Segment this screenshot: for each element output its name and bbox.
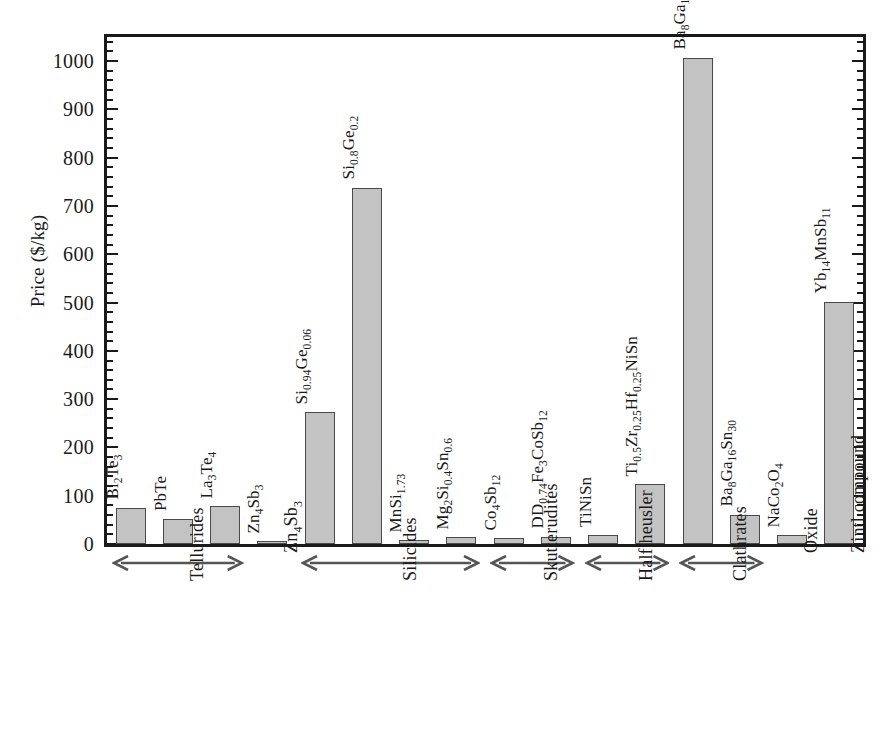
y-major-tick xyxy=(107,60,118,62)
group-label: Tellurides xyxy=(187,507,208,581)
group-label: Oxide xyxy=(801,508,822,553)
y-major-tick xyxy=(852,60,863,62)
y-major-tick xyxy=(107,446,118,448)
y-tick-label: 400 xyxy=(32,341,94,361)
bar-label: Ba8Ga16Sn30 xyxy=(716,420,737,507)
y-minor-tick xyxy=(107,234,113,236)
y-minor-tick xyxy=(107,524,113,526)
group-span-double-arrow-icon xyxy=(301,555,480,571)
group-label: Zintl compound xyxy=(848,435,869,553)
y-axis-tick-labels: 01002003004005006007008009001000 xyxy=(32,0,94,735)
group-span-double-arrow-icon xyxy=(112,555,244,571)
group-label: Zn4Sb3 xyxy=(281,501,306,553)
y-minor-tick xyxy=(107,379,113,381)
y-tick-label: 600 xyxy=(32,244,94,264)
y-minor-tick xyxy=(107,340,113,342)
y-tick-label: 1000 xyxy=(32,51,94,71)
bar xyxy=(116,508,146,544)
y-tick-label: 800 xyxy=(32,148,94,168)
bar xyxy=(210,506,240,544)
y-minor-tick xyxy=(107,147,113,149)
y-major-tick xyxy=(107,205,118,207)
group-label: Silicides xyxy=(400,517,421,581)
y-minor-tick xyxy=(857,244,863,246)
y-minor-tick xyxy=(857,234,863,236)
y-minor-tick xyxy=(857,166,863,168)
bar-label: Si0.8Ge0.2 xyxy=(338,116,359,180)
y-minor-tick xyxy=(857,176,863,178)
y-major-tick xyxy=(107,350,118,352)
y-minor-tick xyxy=(107,292,113,294)
y-minor-tick xyxy=(107,417,113,419)
y-minor-tick xyxy=(857,99,863,101)
group-label: Half heusler xyxy=(636,490,657,581)
y-tick-label: 700 xyxy=(32,196,94,216)
y-minor-tick xyxy=(857,263,863,265)
y-tick-label: 100 xyxy=(32,486,94,506)
category-group-annotations: TelluridesZn4Sb3SilicidesSkutteruditesHa… xyxy=(104,547,866,735)
plot-inner: Bi2Te3PbTeLa3Te4Zn4Sb3Si0.94Ge0.06Si0.8G… xyxy=(107,37,863,544)
y-minor-tick xyxy=(107,427,113,429)
y-minor-tick xyxy=(107,244,113,246)
bar xyxy=(352,188,382,544)
bar-label: Bi2Te3 xyxy=(102,455,123,500)
plot-area: Bi2Te3PbTeLa3Te4Zn4Sb3Si0.94Ge0.06Si0.8G… xyxy=(104,34,866,547)
y-minor-tick xyxy=(857,224,863,226)
y-minor-tick xyxy=(107,128,113,130)
y-minor-tick xyxy=(107,166,113,168)
bar-label: TiNiSn xyxy=(576,477,596,527)
y-major-tick xyxy=(852,205,863,207)
bar-label: Ba8Ga16Ge30 xyxy=(669,0,690,50)
y-minor-tick xyxy=(857,137,863,139)
y-major-tick xyxy=(852,108,863,110)
y-minor-tick xyxy=(107,118,113,120)
y-major-tick xyxy=(107,157,118,159)
y-minor-tick xyxy=(107,224,113,226)
y-minor-tick xyxy=(857,417,863,419)
y-minor-tick xyxy=(857,360,863,362)
y-minor-tick xyxy=(857,408,863,410)
bar xyxy=(683,58,713,544)
y-minor-tick xyxy=(107,533,113,535)
y-minor-tick xyxy=(857,321,863,323)
y-minor-tick xyxy=(857,340,863,342)
y-tick-label: 500 xyxy=(32,293,94,313)
y-minor-tick xyxy=(857,369,863,371)
y-minor-tick xyxy=(857,273,863,275)
y-major-tick xyxy=(107,302,118,304)
y-minor-tick xyxy=(857,147,863,149)
y-minor-tick xyxy=(857,70,863,72)
y-minor-tick xyxy=(107,331,113,333)
y-minor-tick xyxy=(107,195,113,197)
y-minor-tick xyxy=(107,408,113,410)
y-minor-tick xyxy=(107,504,113,506)
bar-label: Yb14MnSb11 xyxy=(811,208,832,294)
price-bar-chart-figure: Price ($/kg) 010020030040050060070080090… xyxy=(0,0,896,735)
y-tick-label: 200 xyxy=(32,437,94,457)
y-minor-tick xyxy=(107,437,113,439)
bar xyxy=(494,538,524,544)
bar xyxy=(588,535,618,544)
y-minor-tick xyxy=(107,388,113,390)
bar xyxy=(446,537,476,544)
bar-label: NaCo2O4 xyxy=(764,463,785,527)
y-minor-tick xyxy=(107,263,113,265)
y-minor-tick xyxy=(107,186,113,188)
y-minor-tick xyxy=(107,321,113,323)
bar-label: Si0.94Ge0.06 xyxy=(291,329,312,404)
y-minor-tick xyxy=(107,89,113,91)
y-major-tick xyxy=(852,253,863,255)
bar-label: Mg2Si0.4Sn0.6 xyxy=(433,438,454,530)
y-minor-tick xyxy=(107,50,113,52)
y-minor-tick xyxy=(857,282,863,284)
y-major-tick xyxy=(107,108,118,110)
y-minor-tick xyxy=(857,41,863,43)
bar-label: PbTe xyxy=(151,476,171,511)
bar-label: La3Te4 xyxy=(197,452,218,499)
y-minor-tick xyxy=(107,360,113,362)
y-minor-tick xyxy=(107,99,113,101)
y-minor-tick xyxy=(107,514,113,516)
y-minor-tick xyxy=(857,311,863,313)
y-minor-tick xyxy=(857,331,863,333)
y-minor-tick xyxy=(857,427,863,429)
